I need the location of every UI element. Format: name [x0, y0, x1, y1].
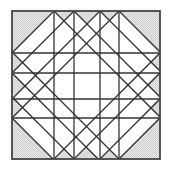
- quilt-block-diagram: [0, 0, 169, 170]
- quilt-block: [0, 0, 169, 170]
- block-background: [12, 11, 160, 159]
